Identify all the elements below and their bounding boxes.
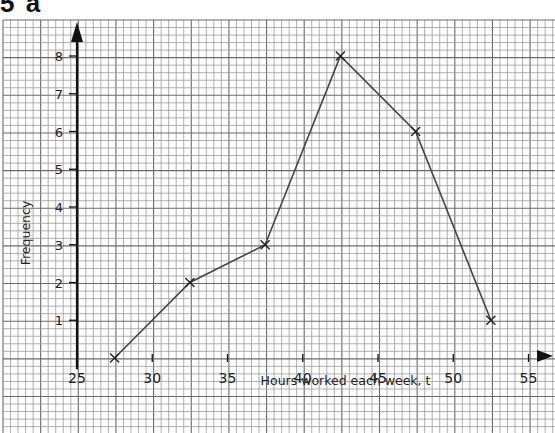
svg-text:2: 2 (55, 276, 63, 291)
svg-text:7: 7 (55, 87, 63, 102)
axis-labels: Hours worked each week, tFrequency (18, 200, 431, 388)
svg-text:4: 4 (55, 200, 63, 215)
svg-text:5: 5 (55, 162, 63, 177)
data-series (110, 52, 495, 363)
x-marker-icon (486, 316, 495, 325)
svg-text:1: 1 (55, 313, 63, 328)
tick-labels: 1234567825303540455055 (55, 49, 538, 386)
x-axis-label: Hours worked each week, t (261, 373, 431, 388)
x-marker-icon (185, 278, 194, 287)
svg-text:55: 55 (520, 370, 538, 386)
x-marker-icon (336, 52, 345, 61)
y-axis-label: Frequency (18, 200, 33, 265)
svg-text:3: 3 (55, 238, 63, 253)
svg-text:6: 6 (55, 125, 63, 140)
x-marker-icon (110, 354, 119, 363)
svg-text:35: 35 (219, 370, 237, 386)
svg-text:50: 50 (444, 370, 462, 386)
svg-text:25: 25 (68, 370, 86, 386)
frequency-polygon-line (115, 56, 491, 358)
frequency-polygon-chart: 1234567825303540455055 Hours worked each… (0, 0, 555, 433)
y-axis-arrow-icon (71, 22, 83, 42)
x-marker-icon (261, 240, 270, 249)
svg-text:30: 30 (143, 370, 161, 386)
svg-text:8: 8 (55, 49, 63, 64)
x-marker-icon (411, 127, 420, 136)
